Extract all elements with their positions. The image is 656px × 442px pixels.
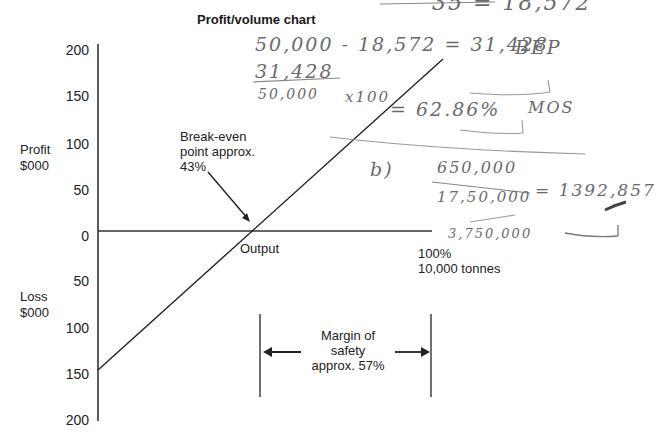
x-end-tonnes: 10,000 tonnes [418, 261, 500, 276]
handwritten-bep-tag: BEP [515, 36, 562, 58]
handwritten-subtraction: 50,000 - 18,572 = 31,428 [255, 33, 549, 55]
handwritten-mos-result: = 62.86% [390, 98, 500, 120]
y-tick-100-loss: 100 [49, 320, 89, 336]
handwritten-part-b-numerator: 650,000 [437, 158, 517, 177]
handwritten-mos-multiplier: x100 [345, 88, 390, 106]
handwritten-part-b-result: = 1392,857 [535, 180, 656, 200]
break-even-label-3: 43% [180, 159, 206, 174]
break-even-label-2: point approx. [180, 144, 255, 159]
hand-underline-2 [470, 215, 515, 222]
x-axis-label: Output [240, 241, 279, 256]
handwritten-bep-calc: 35 = 18,572 [432, 0, 591, 15]
y-label-profit: Profit $000 [20, 142, 62, 174]
y-tick-150-profit: 150 [49, 88, 89, 104]
mos-label-1: Margin of [300, 328, 396, 343]
y-label-loss: Loss $000 [20, 289, 62, 321]
handwritten-part-b: b) [370, 158, 394, 180]
y-tick-50-profit: 50 [49, 182, 89, 198]
hand-separator [330, 137, 585, 154]
handwritten-below-axis: 3,750,000 [448, 226, 532, 241]
mos-label-2: safety [300, 343, 396, 358]
hand-bracket-1 [470, 80, 550, 95]
handwritten-part-b-denominator: 17,50,000 [437, 188, 531, 206]
hand-bracket-3 [565, 225, 618, 237]
handwritten-mos-numerator: 31,428 [255, 60, 333, 82]
hand-bracket-2 [460, 120, 523, 134]
mos-right-arrowhead [421, 347, 430, 357]
y-tick-200-profit: 200 [49, 42, 89, 58]
break-even-label-1: Break-even [180, 129, 246, 144]
handwritten-mos-tag: MOS [528, 98, 574, 117]
mos-left-arrowhead [263, 347, 272, 357]
chart-title: Profit/volume chart [197, 12, 315, 27]
break-even-arrow [208, 172, 248, 219]
mos-label-3: approx. 57% [300, 358, 396, 373]
x-end-percent: 100% [418, 246, 451, 261]
y-tick-50-loss: 50 [49, 273, 89, 289]
y-tick-0: 0 [49, 228, 89, 244]
y-tick-200-loss: 200 [49, 412, 89, 428]
y-tick-150-loss: 150 [49, 366, 89, 382]
handwritten-mos-denominator: 50,000 [258, 86, 319, 102]
hand-scribble [605, 202, 626, 210]
